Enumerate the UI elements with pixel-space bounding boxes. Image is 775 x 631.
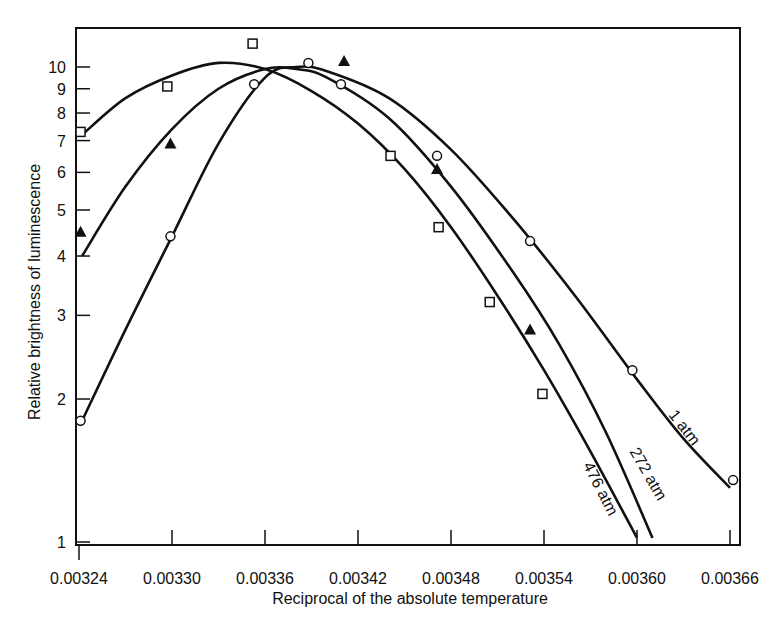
x-tick-label: 0.00348 [422, 570, 480, 587]
square-marker [538, 389, 547, 398]
curve-label: 476 atm [580, 459, 621, 518]
x-tick-label: 0.00342 [329, 570, 387, 587]
triangle-marker [164, 138, 176, 149]
y-tick-label: 4 [57, 248, 66, 265]
curve-label: 1 atm [666, 406, 704, 448]
y-tick-label: 8 [57, 105, 66, 122]
y-tick-label: 10 [48, 59, 66, 76]
luminescence-chart: 12345678910 0.003240.003300.003360.00342… [0, 0, 775, 631]
y-tick-label: 6 [57, 164, 66, 181]
square-marker [434, 223, 443, 232]
circle-marker [433, 151, 442, 160]
y-tick-label: 7 [57, 133, 66, 150]
x-axis-title: Reciprocal of the absolute temperature [272, 590, 548, 607]
square-marker [163, 82, 172, 91]
y-tick-label: 2 [57, 391, 66, 408]
y-tick-label: 9 [57, 81, 66, 98]
square-marker [386, 151, 395, 160]
y-axis-title: Relative brightness of luminescence [26, 164, 43, 420]
curve-labels: 1 atm272 atm476 atm [580, 406, 704, 518]
x-axis-ticks: 0.003240.003300.003360.003420.003480.003… [50, 530, 759, 587]
y-tick-label: 3 [57, 307, 66, 324]
x-tick-label: 0.00360 [608, 570, 666, 587]
circle-marker [526, 237, 535, 246]
x-tick-label: 0.00336 [236, 570, 294, 587]
x-tick-label: 0.00366 [701, 570, 759, 587]
triangle-marker [524, 324, 536, 335]
curve-1-atm [82, 66, 730, 487]
circle-marker [336, 80, 345, 89]
x-tick-label: 0.00324 [50, 570, 108, 587]
circle-marker [250, 80, 259, 89]
circle-marker [729, 476, 738, 485]
curve-272-atm [82, 67, 652, 538]
curve-476-atm [82, 63, 637, 538]
series-markers [75, 39, 738, 484]
circle-marker [628, 366, 637, 375]
square-marker [76, 127, 85, 136]
series-curves [82, 63, 730, 538]
circle-marker [76, 416, 85, 425]
circle-marker [304, 58, 313, 67]
x-tick-label: 0.00330 [143, 570, 201, 587]
square-marker [485, 298, 494, 307]
x-tick-label: 0.00354 [515, 570, 573, 587]
circle-marker [166, 232, 175, 241]
y-tick-label: 5 [57, 202, 66, 219]
triangle-marker [338, 55, 350, 66]
y-tick-label: 1 [57, 534, 66, 551]
square-marker [248, 39, 257, 48]
